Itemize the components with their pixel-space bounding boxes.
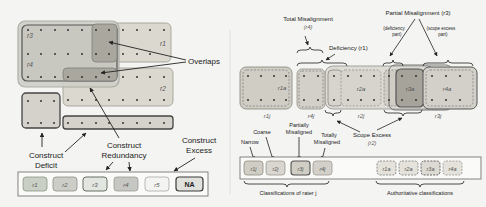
- scope-excess-sub: (r2): [368, 140, 377, 146]
- auth-swatch-label-r4a: r4a: [449, 166, 457, 172]
- partially-misaligned-label-1: Partially: [289, 122, 309, 128]
- region-label-r1: r1: [160, 40, 166, 47]
- rater-swatch-label-r3j: r3j: [297, 166, 304, 172]
- legend-label-na: NA: [184, 181, 194, 188]
- top-braces: [297, 47, 473, 66]
- region-label-r3: r3: [27, 32, 33, 39]
- deficit-to-excess-arrow: [65, 133, 86, 152]
- region-label-r2: r2: [160, 85, 166, 92]
- overlap-r2-r3: [63, 68, 117, 81]
- region-excess: [63, 116, 173, 129]
- total-misalignment-sub: (r4): [304, 24, 313, 30]
- total-misalignment-label: Total Misalignment: [283, 16, 333, 22]
- construct-redundancy-label-1: Construct: [107, 141, 142, 150]
- deficiency-part-label-2: part): [392, 32, 402, 37]
- partial-arrow-left: [390, 19, 415, 56]
- rater-region-r4j: [297, 69, 325, 109]
- rater-swatch-label-r1j: r1j: [250, 166, 257, 172]
- coarse-arrow: [266, 137, 273, 160]
- scope-excess-arrow-right: [377, 118, 402, 130]
- auth-label-r2a: r2a: [357, 86, 366, 92]
- legend-label-r3: r3: [92, 182, 98, 188]
- rater-label-r4j: r4j: [308, 113, 315, 119]
- deficiency-arrow: [326, 54, 335, 60]
- partially-misaligned-label-2: Misaligned: [286, 129, 312, 135]
- construct-excess-label-2: Excess: [186, 146, 212, 155]
- partial-misalignment-label: Partial Misalignment (r3): [385, 10, 450, 16]
- auth-label-r4a: r4a: [443, 86, 452, 92]
- rater-swatch-label-r4j: r4j: [319, 166, 326, 172]
- rater-swatch-label-r2j: r2j: [272, 166, 279, 172]
- authoritative-group-caption: Authoritative classifications: [387, 190, 453, 196]
- bottom-braces: [325, 110, 422, 116]
- deficiency-part-label-1: (deficiency: [383, 26, 405, 31]
- scope-excess-label: Scope Excess: [353, 132, 391, 138]
- scope-excess-arrow-left: [337, 121, 360, 132]
- auth-label-r1a: r1a: [278, 85, 287, 91]
- scope-excess-part-label-2: part): [438, 32, 448, 37]
- diagram-canvas: r3 r4 r1 r2 Overlaps Construct Deficit C…: [0, 0, 486, 207]
- construct-deficit-label-2: Deficit: [35, 161, 58, 170]
- rater-label-r2j: r2j: [358, 113, 365, 119]
- auth-r1a-slice: [328, 70, 342, 106]
- construct-deficit-label-1: Construct: [29, 151, 64, 160]
- legend-label-r4: r4: [123, 182, 129, 188]
- construct-redundancy-label-2: Redundancy: [102, 151, 147, 160]
- deficiency-label: Deficiency (r1): [329, 45, 368, 51]
- redundancy-arrow-r4: [129, 162, 130, 171]
- excess-arrow: [174, 158, 195, 171]
- overlaps-label: Overlaps: [188, 57, 220, 66]
- partial-arrow-right: [419, 19, 437, 56]
- totally-misaligned-label-2: Misaligned: [314, 139, 340, 145]
- total-misalignment-arrow: [305, 36, 308, 45]
- auth-swatch-label-r3a: r3a: [427, 166, 435, 172]
- legend-braces: [244, 181, 464, 187]
- left-panel: r3 r4 r1 r2 Overlaps Construct Deficit C…: [18, 21, 220, 196]
- auth-label-r3a: r3a: [406, 86, 415, 92]
- auth-swatch-label-r2a: r2a: [405, 166, 413, 172]
- auth-swatch-label-r1a: r1a: [383, 166, 391, 172]
- region-label-r4: r4: [27, 61, 33, 68]
- rater-label-r1j: r1j: [264, 113, 271, 119]
- construct-excess-label-1: Construct: [182, 136, 217, 145]
- legend-label-r2: r2: [62, 182, 68, 188]
- coarse-label: Coarse: [253, 129, 271, 135]
- right-panel: r1a r2a r3a r4a r1j r4j r2j r3j Total Mi…: [240, 10, 481, 196]
- rater-group-caption: Classifications of rater j: [260, 190, 317, 196]
- scope-excess-part-label-1: (scope excess: [427, 26, 457, 31]
- redundancy-arrow-r3: [106, 162, 113, 170]
- legend-label-r5: r5: [154, 182, 160, 188]
- rater-label-r3j: r3j: [435, 113, 442, 119]
- legend-label-r1: r1: [32, 182, 37, 188]
- narrow-label: Narrow: [241, 139, 259, 145]
- totally-misaligned-label-1: Totally: [321, 132, 337, 138]
